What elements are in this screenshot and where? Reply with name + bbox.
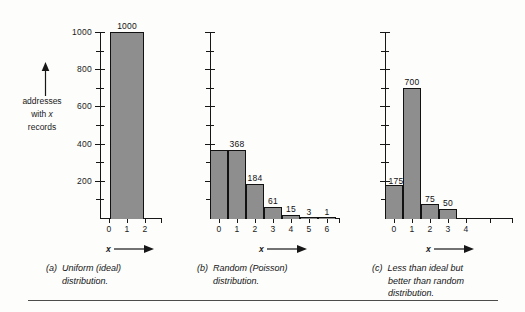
caption-b-line-1: (b) Random (Poisson) bbox=[197, 262, 347, 275]
y-tick-500 bbox=[96, 125, 104, 126]
x-tick-c-4 bbox=[466, 218, 467, 223]
bar-c-x2 bbox=[421, 204, 439, 219]
y-tick-b-700 bbox=[206, 88, 214, 89]
y-tick-label-600: 600 bbox=[58, 101, 92, 111]
y-tick-b-1000 bbox=[205, 32, 215, 33]
x-tick-label-c-1: 1 bbox=[403, 224, 421, 234]
y-tick-label-200: 200 bbox=[58, 176, 92, 186]
right-arrow-icon bbox=[434, 245, 474, 253]
bar-b-x4 bbox=[282, 215, 300, 219]
y-tick-200 bbox=[95, 181, 105, 182]
bar-b-x0 bbox=[210, 150, 228, 220]
y-tick-c-1000 bbox=[380, 32, 390, 33]
x-tick-label-a-2: 2 bbox=[136, 224, 154, 234]
y-tick-c-300 bbox=[381, 162, 389, 163]
x-tick-c-extra bbox=[490, 218, 491, 223]
caption-c: (c) Less than ideal but better than rand… bbox=[372, 262, 524, 300]
bar-b-x1 bbox=[228, 150, 246, 220]
x-tick-a-end bbox=[161, 218, 162, 223]
x-axis-symbol-a: x bbox=[106, 244, 111, 254]
bar-value-a-x1: 1000 bbox=[108, 21, 146, 31]
caption-b: (b) Random (Poisson) distribution. bbox=[197, 262, 347, 287]
y-tick-b-500 bbox=[206, 125, 214, 126]
caption-b-text-1: Random (Poisson) bbox=[213, 263, 288, 273]
x-tick-label-c-0: 0 bbox=[385, 224, 403, 234]
x-tick-label-c-2: 2 bbox=[421, 224, 439, 234]
right-arrow-icon bbox=[114, 245, 154, 253]
x-tick-label-b-6: 6 bbox=[318, 224, 336, 234]
x-axis-arrow-a: x bbox=[106, 244, 154, 254]
bottom-divider bbox=[28, 300, 498, 301]
x-tick-label-b-1: 1 bbox=[228, 224, 246, 234]
chart-panel-c: 0 1 2 3 4 175 700 75 50 x bbox=[350, 0, 525, 312]
bar-value-c-x1: 700 bbox=[403, 77, 421, 87]
caption-a-tag: (a) bbox=[46, 263, 57, 273]
x-tick-label-b-5: 5 bbox=[300, 224, 318, 234]
x-tick-label-b-0: 0 bbox=[210, 224, 228, 234]
bar-c-x0 bbox=[385, 185, 403, 219]
y-tick-b-400 bbox=[205, 144, 215, 145]
x-tick-b-end bbox=[339, 218, 340, 223]
caption-c-line-3: distribution. bbox=[372, 287, 524, 300]
x-axis-arrow-c: x bbox=[426, 244, 474, 254]
right-arrow-icon bbox=[267, 245, 307, 253]
x-tick-label-a-1: 1 bbox=[118, 224, 136, 234]
y-tick-600 bbox=[95, 106, 105, 107]
y-tick-1000 bbox=[95, 32, 105, 33]
y-tick-b-800 bbox=[205, 69, 215, 70]
caption-a-line-2: distribution. bbox=[46, 275, 178, 288]
bar-b-x2 bbox=[246, 184, 264, 219]
y-tick-c-400 bbox=[380, 144, 390, 145]
chart-panel-b: 0 1 2 3 4 5 6 368 184 61 15 3 1 bbox=[175, 0, 350, 312]
y-tick-400 bbox=[95, 144, 105, 145]
y-axis-label-line-3: records bbox=[6, 121, 78, 134]
caption-b-line-2: distribution. bbox=[197, 275, 347, 288]
y-tick-800 bbox=[95, 69, 105, 70]
y-tick-b-900 bbox=[206, 51, 214, 52]
y-tick-100 bbox=[96, 199, 104, 200]
x-tick-label-b-2: 2 bbox=[246, 224, 264, 234]
caption-c-line-1: (c) Less than ideal but bbox=[372, 262, 524, 275]
x-tick-label-c-3: 3 bbox=[439, 224, 457, 234]
figure-three-distributions: addresses with x records 1000 800 600 40… bbox=[0, 0, 525, 312]
caption-c-tag: (c) bbox=[372, 263, 383, 273]
bar-b-x3 bbox=[264, 207, 282, 219]
bar-a-x1 bbox=[110, 32, 144, 219]
bar-value-b-x4: 15 bbox=[282, 204, 300, 214]
chart-panel-a: addresses with x records 1000 800 600 40… bbox=[0, 0, 180, 312]
bar-value-b-x6: 1 bbox=[318, 207, 336, 217]
x-axis-arrow-b: x bbox=[259, 244, 307, 254]
bar-value-c-x2: 75 bbox=[421, 194, 439, 204]
bar-value-b-x5: 3 bbox=[300, 207, 318, 217]
y-tick-c-900 bbox=[381, 51, 389, 52]
caption-c-line-2: better than random bbox=[372, 275, 524, 288]
y-tick-900 bbox=[96, 51, 104, 52]
x-tick-label-b-4: 4 bbox=[282, 224, 300, 234]
bar-b-x6 bbox=[318, 217, 336, 219]
caption-a-line-1: (a) Uniform (ideal) bbox=[46, 262, 178, 275]
x-tick-label-b-3: 3 bbox=[264, 224, 282, 234]
x-axis-symbol-c: x bbox=[426, 244, 431, 254]
bar-value-b-x3: 61 bbox=[264, 196, 282, 206]
y-tick-c-700 bbox=[381, 88, 389, 89]
y-tick-label-1000: 1000 bbox=[58, 27, 92, 37]
x-tick-a-2 bbox=[145, 218, 146, 223]
y-tick-700 bbox=[96, 88, 104, 89]
bar-b-x5 bbox=[300, 217, 318, 219]
x-axis-symbol-b: x bbox=[259, 244, 264, 254]
x-tick-label-a-0: 0 bbox=[100, 224, 118, 234]
y-tick-label-800: 800 bbox=[58, 64, 92, 74]
y-tick-c-600 bbox=[380, 106, 390, 107]
bar-value-c-x3: 50 bbox=[439, 198, 457, 208]
caption-c-text-1: Less than ideal but bbox=[388, 263, 464, 273]
bar-value-c-x0: 175 bbox=[386, 176, 406, 186]
y-tick-300 bbox=[96, 162, 104, 163]
caption-b-tag: (b) bbox=[197, 263, 208, 273]
bar-value-b-x2: 184 bbox=[246, 173, 264, 183]
x-tick-c-end bbox=[512, 218, 513, 223]
y-tick-c-800 bbox=[380, 69, 390, 70]
y-tick-b-600 bbox=[205, 106, 215, 107]
bar-c-x3 bbox=[439, 209, 457, 219]
caption-a-text-1: Uniform (ideal) bbox=[62, 263, 121, 273]
up-arrow-icon bbox=[41, 62, 50, 96]
